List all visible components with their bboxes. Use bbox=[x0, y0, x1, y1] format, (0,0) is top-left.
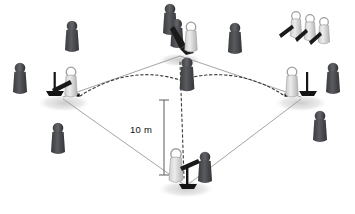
waiting-player-3 bbox=[318, 18, 329, 44]
waiting-player-2 bbox=[304, 15, 315, 41]
observer-top-left bbox=[65, 21, 79, 52]
dimension-marker-10m bbox=[159, 100, 169, 175]
observer-center-field bbox=[180, 57, 195, 91]
batter-right-base bbox=[286, 67, 298, 97]
batter-top-base bbox=[185, 22, 197, 52]
observer-right-lower bbox=[313, 111, 327, 142]
observer-right-outer bbox=[326, 63, 340, 94]
waiting-player-1 bbox=[290, 12, 301, 38]
field-diagram: 10 m bbox=[0, 0, 355, 214]
observer-bottom-base bbox=[198, 152, 212, 183]
observer-top-right bbox=[228, 23, 242, 54]
trajectory-endpoint-markers bbox=[77, 94, 288, 97]
diagram-canvas bbox=[0, 0, 355, 214]
tee-right-base bbox=[299, 72, 317, 96]
dimension-label-10m: 10 m bbox=[130, 124, 152, 135]
observer-left-lower bbox=[51, 123, 65, 154]
batter-bottom-base bbox=[169, 149, 183, 182]
observer-left-outer bbox=[13, 63, 27, 94]
